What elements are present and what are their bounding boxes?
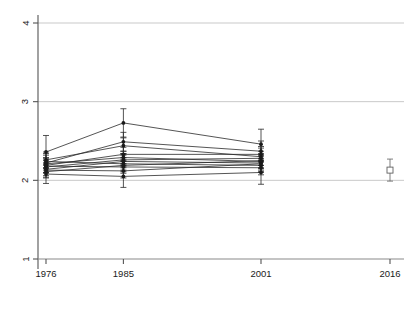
y-tick-label-2: 2 <box>20 178 31 183</box>
data-point-S4-2001 <box>259 152 263 156</box>
line-chart-with-error-bars: 1234 1976198520012016 <box>0 0 420 314</box>
data-point-S10-1976 <box>44 164 48 168</box>
data-point-S11-1985 <box>122 169 126 173</box>
data-point-S12-1976 <box>44 172 48 176</box>
data-point-S1-1976 <box>44 150 48 154</box>
x-tick-label-1976: 1976 <box>35 268 56 279</box>
x-tick-label-2001: 2001 <box>250 268 271 279</box>
data-point-S8-1976 <box>44 160 48 164</box>
y-tick-label-1: 1 <box>20 256 31 261</box>
data-point-S10-1985 <box>122 165 126 169</box>
data-point-S1-1985 <box>122 121 126 125</box>
data-point-S10-2001 <box>259 166 263 170</box>
data-point-S1-2001 <box>259 142 263 146</box>
data-point-S12-1985 <box>122 175 126 179</box>
x-tick-label-1985: 1985 <box>113 268 134 279</box>
data-point-S11-1976 <box>44 168 48 172</box>
data-point-S12-2001 <box>259 171 263 175</box>
open-square-marker <box>387 167 393 173</box>
y-tick-label-4: 4 <box>20 20 31 25</box>
y-tick-label-3: 3 <box>20 99 31 104</box>
data-point-S11-2001 <box>259 162 263 166</box>
x-tick-label-2016: 2016 <box>379 268 400 279</box>
chart-figure: 1234 1976198520012016 <box>0 0 420 314</box>
data-point-S3-1985 <box>122 144 126 148</box>
data-point-S2-1985 <box>122 140 126 144</box>
